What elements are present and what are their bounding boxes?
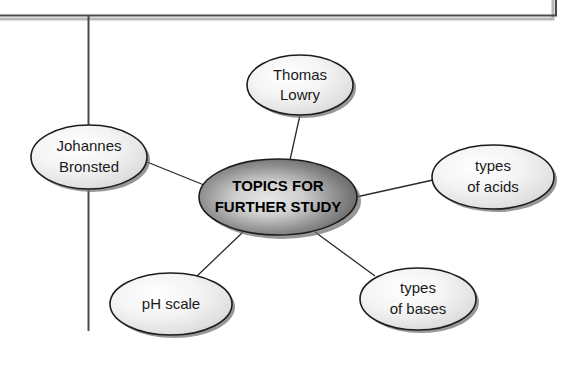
concept-map-canvas: Thomas Lowry Johannes Bronsted types of … bbox=[0, 0, 579, 365]
node-types-of-bases[interactable]: types of bases bbox=[360, 268, 479, 333]
edge-center-types-of-acids bbox=[356, 180, 433, 197]
edge-center-types-of-bases bbox=[315, 232, 375, 276]
node-label-ph-scale: pH scale bbox=[142, 295, 200, 312]
page-border-rule bbox=[0, 0, 556, 19]
edge-center-ph-scale bbox=[196, 232, 243, 277]
node-label-johannes-bronsted-line2: Bronsted bbox=[59, 158, 119, 175]
center-label-line1: TOPICS FOR bbox=[232, 177, 324, 194]
node-label-types-of-bases-line1: types bbox=[400, 279, 436, 296]
node-label-types-of-acids-line2: of acids bbox=[467, 178, 519, 195]
node-johannes-bronsted[interactable]: Johannes Bronsted bbox=[31, 125, 150, 192]
node-label-thomas-lowry-line1: Thomas bbox=[273, 66, 327, 83]
node-label-types-of-bases-line2: of bases bbox=[390, 300, 447, 317]
node-center-topics-for-further-study[interactable]: TOPICS FOR FURTHER STUDY bbox=[199, 159, 361, 239]
node-ph-scale[interactable]: pH scale bbox=[110, 273, 235, 338]
concept-map-page: Thomas Lowry Johannes Bronsted types of … bbox=[0, 0, 579, 365]
node-thomas-lowry[interactable]: Thomas Lowry bbox=[247, 55, 356, 118]
center-label-line2: FURTHER STUDY bbox=[215, 198, 342, 215]
edge-center-johannes-bronsted bbox=[147, 162, 204, 185]
node-types-of-acids[interactable]: types of acids bbox=[432, 145, 557, 212]
node-label-johannes-bronsted-line1: Johannes bbox=[56, 137, 121, 154]
node-label-thomas-lowry-line2: Lowry bbox=[280, 86, 321, 103]
node-label-types-of-acids-line1: types bbox=[475, 157, 511, 174]
edge-center-thomas-lowry bbox=[290, 115, 300, 160]
